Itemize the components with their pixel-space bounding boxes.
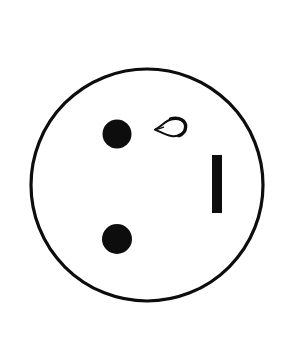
figure-canvas: Line drawing of a circle containing two … (0, 0, 281, 340)
figure-drawing (0, 0, 281, 340)
upper-left-dot (103, 120, 132, 149)
vertical-bar (212, 155, 222, 213)
lower-left-dot (102, 224, 132, 254)
background-rect (0, 0, 281, 340)
